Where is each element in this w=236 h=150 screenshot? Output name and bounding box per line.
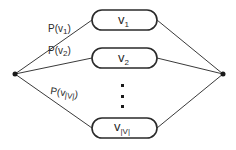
vertical-ellipsis-icon [121,84,124,108]
edge-label-p-v2: P(v2) [48,45,71,58]
diagram-canvas: v1 v2 v|V| P(v1) P(v2) P(v|V|) [0,0,236,150]
sink-edges [157,20,223,128]
edge-source-vV [15,74,92,128]
edge-label-p-vV: P(v|V|) [49,85,78,102]
value-nodes [92,10,157,138]
edge-label-p-v1: P(v1) [48,23,71,36]
edge-vV-sink [157,74,223,128]
sink-node-dot [221,72,226,77]
source-edges [15,20,92,128]
source-node-dot [13,72,18,77]
